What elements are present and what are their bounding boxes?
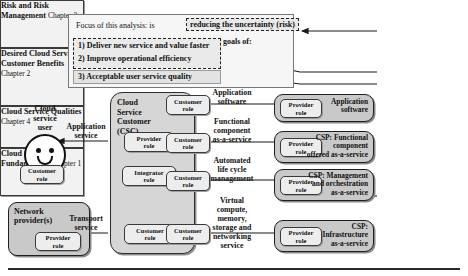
network-provider-title: Network provider(s) <box>14 207 52 225</box>
middle-label-functional-component: Functional component as-a-service <box>196 117 268 144</box>
chapter-title-line-4: Benefits <box>37 59 65 68</box>
role-label-line-2: role <box>296 237 307 245</box>
csp-label-line-3: offered as-a-service <box>307 151 368 159</box>
chapter-title-line-3: Customer <box>1 59 35 68</box>
role-label-line-1: Customer <box>136 227 164 235</box>
csp-label-line-2: software <box>331 106 368 114</box>
role-label-line-2: role <box>144 176 155 184</box>
transport-service-line-2: service <box>57 223 115 232</box>
csp-provider-role[interactable]: Provider role <box>280 227 322 246</box>
application-service-line-2: service <box>56 131 116 140</box>
middle-label-line-1: Automated <box>194 156 270 165</box>
middle-label-automated-life-cycle: Automated life cycle management <box>194 156 270 183</box>
csp-provider-role[interactable]: Provider role <box>280 99 322 118</box>
csp-box-infrastructure[interactable]: Provider role CSP: Infrastructure as-a-s… <box>274 220 374 252</box>
role-label-line-1: Customer <box>28 167 56 175</box>
role-label-line-2: role <box>183 143 194 151</box>
csc-title-line-2: Service <box>117 108 151 118</box>
middle-label-line-3: management <box>194 174 270 183</box>
middle-label-line-1: Application <box>196 88 268 97</box>
role-label-line-2: role <box>183 234 194 242</box>
goal-3: 3) Acceptable user service quality <box>78 72 192 81</box>
chapter-title-line-1: Desired Cloud <box>1 49 50 58</box>
role-label-line-1: Provider <box>46 234 71 242</box>
csp-label: CSP: Functional component offered as-a-s… <box>307 134 368 159</box>
middle-label-application-software: Application software <box>196 88 268 106</box>
csc-title: Cloud Service Customer (CSC) <box>117 98 151 136</box>
role-label-line-2: role <box>145 234 156 242</box>
middle-label-line-2: software <box>196 97 268 106</box>
chapter-title-line-1: Cloud <box>1 149 22 158</box>
role-label-line-2: role <box>296 109 307 117</box>
chapter-title-line-1: Risk and <box>1 1 31 10</box>
application-service-label: Application service <box>56 122 116 140</box>
csp-label: CSP: Management and orchestration as-a-s… <box>308 172 368 197</box>
risk-chip-label: reducing the uncertainty (risk) <box>190 20 295 29</box>
diagram-canvas: Focus of this analysis: is of a cloud se… <box>0 0 468 276</box>
goal-2: 2) Improve operational efficiency <box>78 54 191 63</box>
role-label-line-1: Provider <box>137 135 162 143</box>
middle-label-line-2: component <box>196 126 268 135</box>
chapter-number: Chapter 2 <box>1 69 30 78</box>
role-label-line-2: role <box>296 148 307 156</box>
smiley-left-eye-icon <box>36 148 41 153</box>
network-provider-line-1: Network <box>14 207 52 216</box>
middle-label-line-4: storage and <box>196 223 268 232</box>
user-customer-role[interactable]: Customer role <box>20 165 64 184</box>
middle-label-line-1: Functional <box>196 117 268 126</box>
goal-1: 1) Deliver new service and value faster <box>78 41 209 50</box>
network-provider-line-2: provider(s) <box>14 216 52 225</box>
role-label-line-1: Provider <box>289 229 314 237</box>
smiley-mouth-icon <box>37 156 53 165</box>
csc-title-line-3: Customer <box>117 117 151 127</box>
middle-label-line-3: as-a-service <box>196 135 268 144</box>
csp-label: CSP: Infrastructure as-a-service <box>323 223 368 248</box>
middle-label-line-6: service <box>196 241 268 250</box>
network-provider-role[interactable]: Provider role <box>35 232 81 251</box>
role-label-line-2: role <box>37 175 48 183</box>
cloud-service-user-line-1: Cloud <box>10 104 80 114</box>
middle-label-virtual-resources: Virtual compute, memory, storage and net… <box>196 196 268 250</box>
role-label-line-2: role <box>183 105 194 113</box>
csc-title-line-1: Cloud <box>117 98 151 108</box>
csp-label-line-3: as-a-service <box>308 189 368 197</box>
role-label-line-2: role <box>183 181 194 189</box>
application-service-line-1: Application <box>56 122 116 131</box>
role-label-line-2: role <box>296 186 307 194</box>
bottom-divider <box>8 268 460 270</box>
middle-label-line-1: Virtual <box>196 196 268 205</box>
role-label-line-1: Integrator <box>134 169 163 177</box>
csp-label-line-3: as-a-service <box>323 240 368 248</box>
csp-box-application-software[interactable]: Provider role Application software <box>274 94 374 122</box>
middle-label-line-5: networking <box>196 232 268 241</box>
middle-label-line-2: life cycle <box>194 165 270 174</box>
csp-box-management-orchestration[interactable]: Provider role CSP: Management and orches… <box>274 169 374 201</box>
chapter-title-line-3: Management <box>1 11 46 20</box>
chapter-title-line-2: Risk <box>33 1 49 10</box>
csp-label: Application software <box>331 98 368 115</box>
transport-service-line-1: Transport <box>57 214 115 223</box>
middle-label-line-2: compute, <box>196 205 268 214</box>
transport-service-label: Transport service <box>57 214 115 232</box>
focus-intro-text: Focus of this analysis: is <box>76 21 155 30</box>
csp-box-functional-component[interactable]: Provider role CSP: Functional component … <box>274 131 374 163</box>
role-label-line-1: Provider <box>289 101 314 109</box>
smiley-right-eye-icon <box>49 148 54 153</box>
middle-label-line-3: memory, <box>196 214 268 223</box>
role-label-line-2: role <box>144 142 155 150</box>
role-label-line-2: role <box>53 242 64 250</box>
risk-highlight-chip: reducing the uncertainty (risk) <box>186 18 299 31</box>
